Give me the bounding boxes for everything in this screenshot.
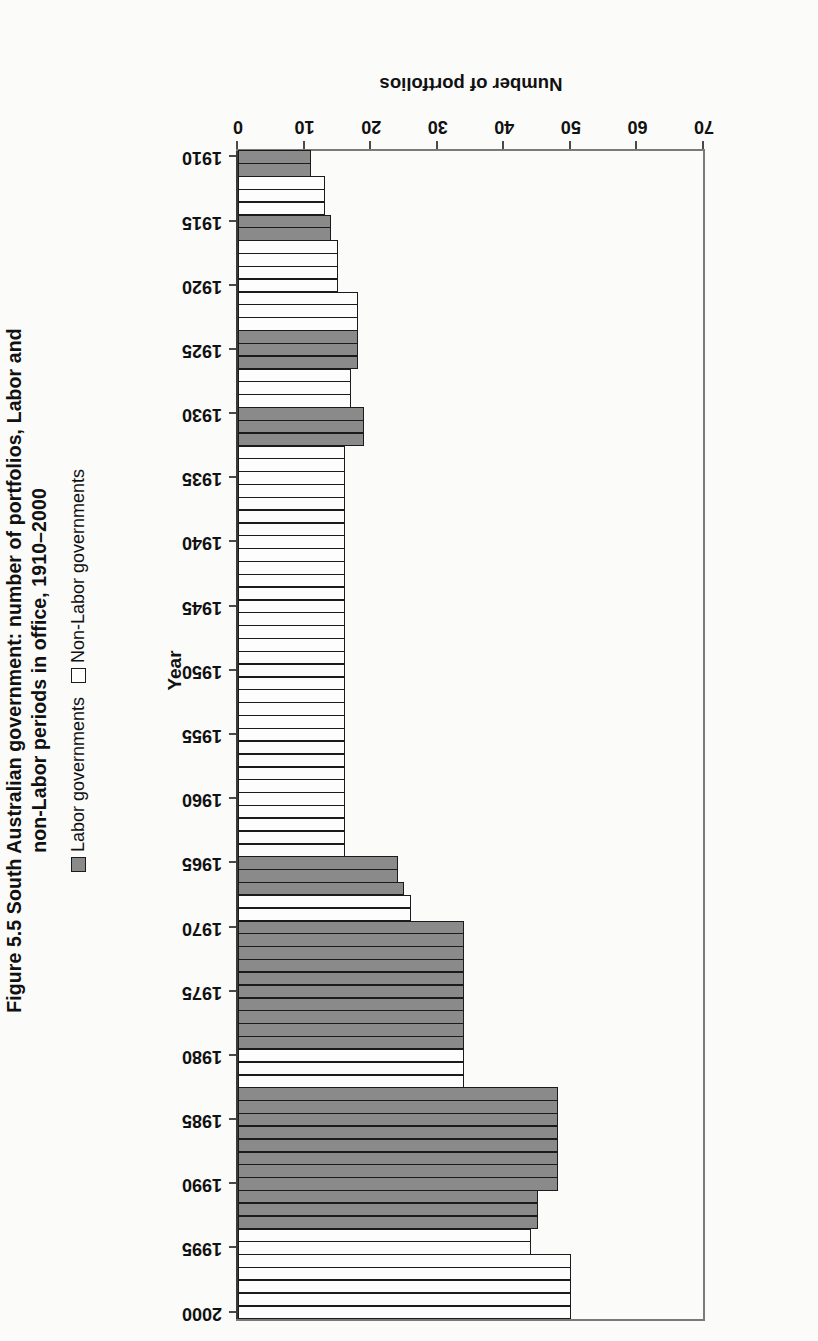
category-tick-1910 bbox=[229, 155, 236, 157]
legend-item-labor[interactable]: Labor governments bbox=[68, 697, 89, 872]
bar-1970 bbox=[238, 921, 464, 934]
bar-1937 bbox=[238, 497, 345, 510]
category-tick-1960 bbox=[229, 797, 236, 799]
category-tick-1965 bbox=[229, 861, 236, 863]
bar-1929 bbox=[238, 394, 351, 407]
bar-1936 bbox=[238, 484, 345, 497]
bar-1949 bbox=[238, 651, 345, 664]
plot-frame-top bbox=[236, 1319, 704, 1321]
category-tick-1995 bbox=[229, 1246, 236, 1248]
bar-1963 bbox=[238, 831, 345, 844]
bar-1924 bbox=[238, 330, 358, 343]
bar-1946 bbox=[238, 612, 345, 625]
category-tick-1970 bbox=[229, 926, 236, 928]
legend-container: Labor governmentsNon-Labor governments bbox=[58, 0, 98, 1341]
bar-1910 bbox=[238, 150, 311, 163]
bar-1942 bbox=[238, 561, 345, 574]
bar-1991 bbox=[238, 1190, 538, 1203]
category-tick-1990 bbox=[229, 1182, 236, 1184]
category-tick-2000 bbox=[229, 1311, 236, 1313]
bar-1954 bbox=[238, 715, 345, 728]
bar-1981 bbox=[238, 1062, 464, 1075]
value-tick-label-10: 10 bbox=[281, 116, 329, 137]
bar-1979 bbox=[238, 1036, 464, 1049]
bar-1925 bbox=[238, 343, 358, 356]
value-tick-label-20: 20 bbox=[347, 116, 395, 137]
bar-1918 bbox=[238, 253, 338, 266]
bar-1964 bbox=[238, 844, 345, 857]
category-tick-1955 bbox=[229, 733, 236, 735]
value-tick-label-30: 30 bbox=[414, 116, 462, 137]
legend: Labor governmentsNon-Labor governments bbox=[58, 0, 98, 1341]
bar-1999 bbox=[238, 1293, 571, 1306]
bar-1947 bbox=[238, 625, 345, 638]
value-tick-10 bbox=[303, 141, 305, 149]
category-tick-1925 bbox=[229, 348, 236, 350]
figure-title-text: Figure 5.5 South Australian government: … bbox=[0, 328, 53, 1013]
category-axis-title: Year bbox=[164, 650, 186, 690]
bar-1976 bbox=[238, 998, 464, 1011]
bar-1984 bbox=[238, 1100, 558, 1113]
bar-1951 bbox=[238, 677, 345, 690]
bar-1926 bbox=[238, 356, 358, 369]
value-tick-0 bbox=[236, 141, 238, 149]
bar-1945 bbox=[238, 600, 345, 613]
bar-1931 bbox=[238, 420, 364, 433]
bar-1923 bbox=[238, 317, 358, 330]
bar-1920 bbox=[238, 279, 338, 292]
bar-1992 bbox=[238, 1203, 538, 1216]
bar-1948 bbox=[238, 638, 345, 651]
bar-1997 bbox=[238, 1267, 571, 1280]
bar-1950 bbox=[238, 664, 345, 677]
value-tick-60 bbox=[635, 141, 637, 149]
bar-1983 bbox=[238, 1087, 558, 1100]
value-tick-label-50: 50 bbox=[547, 116, 595, 137]
figure-title-line-1: Figure 5.5 South Australian government: … bbox=[2, 328, 27, 1013]
legend-swatch-labor-icon bbox=[71, 857, 86, 872]
category-tick-1980 bbox=[229, 1054, 236, 1056]
legend-item-nonlabor[interactable]: Non-Labor governments bbox=[68, 469, 89, 683]
bar-1978 bbox=[238, 1023, 464, 1036]
value-tick-label-40: 40 bbox=[480, 116, 528, 137]
value-tick-30 bbox=[436, 141, 438, 149]
bar-1972 bbox=[238, 946, 464, 959]
bar-1959 bbox=[238, 779, 345, 792]
bar-1955 bbox=[238, 728, 345, 741]
bar-1960 bbox=[238, 792, 345, 805]
bar-1930 bbox=[238, 407, 364, 420]
bar-1943 bbox=[238, 574, 345, 587]
bar-1974 bbox=[238, 972, 464, 985]
bar-1927 bbox=[238, 369, 351, 382]
bar-1971 bbox=[238, 933, 464, 946]
legend-label-nonlabor: Non-Labor governments bbox=[68, 469, 89, 663]
bar-1969 bbox=[238, 908, 411, 921]
bar-1912 bbox=[238, 176, 325, 189]
bar-1989 bbox=[238, 1164, 558, 1177]
bar-1973 bbox=[238, 959, 464, 972]
bar-1996 bbox=[238, 1254, 571, 1267]
bar-1988 bbox=[238, 1152, 558, 1165]
bar-1993 bbox=[238, 1216, 538, 1229]
figure-title-line-2: non-Labor periods in office, 1910–2000 bbox=[27, 328, 52, 1013]
category-tick-1950 bbox=[229, 669, 236, 671]
bar-1957 bbox=[238, 754, 345, 767]
bar-1952 bbox=[238, 690, 345, 703]
rotated-figure-canvas: Figure 5.5 South Australian government: … bbox=[0, 0, 818, 1341]
value-tick-50 bbox=[569, 141, 571, 149]
bar-1962 bbox=[238, 818, 345, 831]
bar-1921 bbox=[238, 292, 358, 305]
legend-label-labor: Labor governments bbox=[68, 697, 89, 852]
bar-1977 bbox=[238, 1010, 464, 1023]
category-tick-1940 bbox=[229, 540, 236, 542]
bar-1967 bbox=[238, 882, 404, 895]
value-tick-20 bbox=[369, 141, 371, 149]
bar-1938 bbox=[238, 510, 345, 523]
bar-1966 bbox=[238, 869, 398, 882]
bar-1922 bbox=[238, 304, 358, 317]
bar-1916 bbox=[238, 227, 331, 240]
bar-1985 bbox=[238, 1113, 558, 1126]
bar-1941 bbox=[238, 548, 345, 561]
value-tick-label-70: 70 bbox=[680, 116, 728, 137]
bar-1956 bbox=[238, 741, 345, 754]
bar-1995 bbox=[238, 1241, 531, 1254]
